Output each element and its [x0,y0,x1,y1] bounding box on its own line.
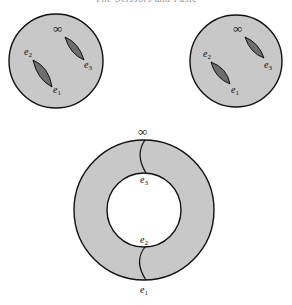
riemann-surface-figure: ∞ e3 e2 e1 ∞ e3 e2 e1 ∞ e3 e2 e1 [0,0,292,305]
torus-annulus: ∞ e3 e2 e1 [74,124,214,297]
left-sphere: ∞ e3 e2 e1 [9,14,103,108]
infinity-label: ∞ [233,21,242,36]
infinity-label: ∞ [53,21,62,36]
right-sphere: ∞ e3 e2 e1 [190,15,282,107]
infinity-label: ∞ [138,124,147,139]
e1-label: e1 [140,284,148,297]
